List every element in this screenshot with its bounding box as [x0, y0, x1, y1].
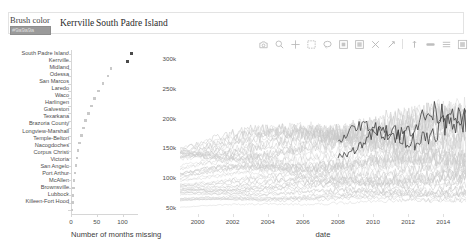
scatter-x-axis-title: Number of months missing	[71, 230, 138, 240]
scatter-point[interactable]	[73, 179, 76, 182]
line-y-tick-label: 150k	[163, 144, 176, 152]
scatter-y-label: McAllen	[0, 177, 69, 184]
line-x-tick-label: 2000	[191, 218, 205, 226]
scatter-x-tick	[71, 214, 72, 217]
scatter-y-label: Odessa	[0, 71, 69, 78]
scatter-y-tick	[68, 91, 71, 92]
line-x-tick-label: 2006	[296, 218, 310, 226]
line-x-tick	[408, 214, 409, 217]
brush-color-label: Brush color	[10, 15, 56, 25]
scatter-y-label: South Padre Island	[0, 50, 69, 57]
scatter-y-label: Killeen-Fort Hood	[0, 198, 69, 205]
scatter-y-tick	[68, 180, 71, 181]
months-missing-scatter-plot[interactable]: South Padre IslandKerrvilleMidlandOdessa…	[0, 42, 150, 248]
scatter-y-label: Laredo	[0, 85, 69, 92]
scatter-y-label: San Marcos	[0, 78, 69, 85]
scatter-y-tick	[68, 128, 71, 129]
scatter-y-tick	[68, 54, 71, 55]
scatter-y-label: San Angelo	[0, 163, 69, 170]
line-y-tick-label: 250k	[163, 85, 176, 93]
scatter-x-tick-label: 50	[93, 218, 100, 226]
line-x-tick	[443, 214, 444, 217]
line-x-tick-label: 2008	[331, 218, 345, 226]
scatter-y-label: Victoria	[0, 156, 69, 163]
selected-city-label-0: Kerrville	[60, 17, 94, 29]
brush-color-picker[interactable]: Brush color #9a9a9a	[10, 15, 56, 35]
scatter-data-frame[interactable]	[71, 50, 138, 214]
scatter-point[interactable]	[72, 194, 75, 197]
scatter-y-tick	[68, 84, 71, 85]
line-x-tick-label: 2010	[366, 218, 380, 226]
line-y-axis-labels: 50k100k150k200k250k300k	[150, 42, 178, 222]
scatter-y-tick	[68, 121, 71, 122]
line-x-tick	[338, 214, 339, 217]
scatter-point[interactable]	[71, 201, 74, 204]
scatter-point[interactable]	[75, 164, 78, 167]
scatter-y-label: Kerrville	[0, 57, 69, 64]
scatter-y-label: Longview-Marshall	[0, 128, 69, 135]
scatter-y-tick	[68, 113, 71, 114]
scatter-y-label: Harlingen	[0, 99, 69, 106]
scatter-point[interactable]	[71, 209, 74, 212]
line-x-tick-label: 2012	[401, 218, 415, 226]
scatter-y-tick	[68, 166, 71, 167]
scatter-point[interactable]	[72, 187, 75, 190]
scatter-y-tick	[68, 151, 71, 152]
scatter-point[interactable]	[87, 112, 90, 115]
scatter-y-tick	[68, 173, 71, 174]
scatter-point[interactable]	[77, 149, 80, 152]
scatter-y-label: Temple-Belton	[0, 135, 69, 142]
scatter-point[interactable]	[78, 142, 81, 145]
scatter-point[interactable]	[93, 97, 96, 100]
brush-color-value-text: #9a9a9a	[12, 26, 34, 35]
scatter-y-tick	[68, 143, 71, 144]
line-data-frame[interactable]	[180, 50, 466, 214]
scatter-y-tick	[68, 136, 71, 137]
scatter-point[interactable]	[107, 75, 110, 78]
selected-city-label-1: South Padre Island	[96, 17, 168, 29]
scatter-point[interactable]	[82, 127, 85, 130]
line-y-tick-label: 300k	[163, 55, 176, 63]
scatter-y-label: Waco	[0, 92, 69, 99]
scatter-x-tick-label: 100	[117, 218, 127, 226]
scatter-point[interactable]	[76, 157, 79, 160]
scatter-y-label: Texarkana	[0, 113, 69, 120]
scatter-y-tick	[68, 61, 71, 62]
scatter-y-label: Galveston	[0, 106, 69, 113]
line-x-tick-label: 2014	[436, 218, 450, 226]
scatter-point[interactable]	[126, 60, 129, 63]
line-x-tick	[198, 214, 199, 217]
scatter-point[interactable]	[130, 52, 133, 55]
scatter-point[interactable]	[110, 67, 113, 70]
scatter-point[interactable]	[80, 134, 83, 137]
scatter-y-label: Port Arthur	[0, 170, 69, 177]
line-y-tick-label: 200k	[163, 115, 176, 123]
scatter-y-tick	[68, 98, 71, 99]
scatter-y-tick	[68, 158, 71, 159]
scatter-point[interactable]	[84, 119, 87, 122]
scatter-point[interactable]	[102, 82, 105, 85]
scatter-point[interactable]	[90, 105, 93, 108]
scatter-x-tick-label: 0	[69, 218, 72, 226]
scatter-y-label: Brownsville	[0, 184, 69, 191]
scatter-y-tick	[68, 76, 71, 77]
widget-bar: Brush color #9a9a9a Kerrville South Padr…	[0, 0, 472, 42]
line-series-svg	[180, 50, 466, 214]
scatter-y-tick	[68, 195, 71, 196]
scatter-point[interactable]	[97, 90, 100, 93]
scatter-y-axis-labels: South Padre IslandKerrvilleMidlandOdessa…	[0, 50, 69, 206]
line-x-tick-label: 2004	[261, 218, 275, 226]
scatter-y-tick	[68, 106, 71, 107]
line-x-tick	[233, 214, 234, 217]
scatter-x-axis-line	[71, 214, 138, 215]
brush-color-swatch[interactable]: #9a9a9a	[10, 26, 51, 35]
line-x-tick	[303, 214, 304, 217]
line-x-tick	[268, 214, 269, 217]
scatter-y-label: Midland	[0, 64, 69, 71]
timeseries-line-plot[interactable]: 50k100k150k200k250k300k 2000200220042006…	[150, 42, 472, 248]
scatter-point[interactable]	[74, 172, 77, 175]
line-y-tick-label: 100k	[163, 174, 176, 182]
line-x-tick-label: 2002	[226, 218, 240, 226]
line-y-tick-label: 50k	[166, 204, 176, 212]
line-x-tick	[373, 214, 374, 217]
